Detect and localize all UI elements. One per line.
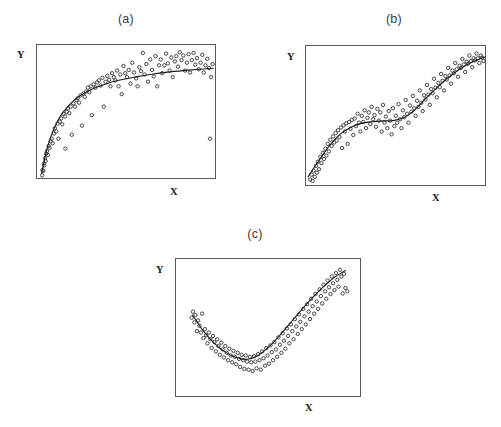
data-point xyxy=(274,348,277,351)
data-point xyxy=(282,339,285,342)
data-point xyxy=(341,292,344,295)
data-point xyxy=(325,297,328,300)
panel-c-data-points xyxy=(190,268,349,373)
data-point xyxy=(251,369,254,372)
data-point xyxy=(344,286,347,289)
data-point xyxy=(200,312,203,315)
data-point xyxy=(316,307,319,310)
data-point xyxy=(336,278,339,281)
data-point xyxy=(203,327,206,330)
data-point xyxy=(210,346,213,349)
data-point xyxy=(202,336,205,339)
data-point xyxy=(255,367,258,370)
data-point xyxy=(300,327,303,330)
data-point xyxy=(292,338,295,341)
data-point xyxy=(346,290,349,293)
data-point xyxy=(194,313,197,316)
data-point xyxy=(311,305,314,308)
data-point xyxy=(307,310,310,313)
data-point xyxy=(327,286,330,289)
data-point xyxy=(243,367,246,370)
data-point xyxy=(232,349,235,352)
data-point xyxy=(333,288,336,291)
panel-c-title: (c) xyxy=(225,227,285,241)
data-point xyxy=(315,300,318,303)
data-point xyxy=(308,317,311,320)
data-point xyxy=(278,343,281,346)
data-point xyxy=(263,364,266,367)
data-point xyxy=(199,331,202,334)
data-point xyxy=(249,361,252,364)
data-point xyxy=(319,294,322,297)
data-point xyxy=(211,334,214,337)
data-point xyxy=(215,338,218,341)
data-point xyxy=(299,320,302,323)
data-point xyxy=(262,357,265,360)
data-point xyxy=(195,330,198,333)
data-point xyxy=(228,347,231,350)
data-point xyxy=(331,282,334,285)
data-point xyxy=(245,360,248,363)
data-point xyxy=(342,272,345,275)
data-point xyxy=(206,342,209,345)
data-point xyxy=(193,321,196,324)
data-point xyxy=(258,359,261,362)
data-point xyxy=(214,350,217,353)
data-point xyxy=(295,325,298,328)
data-point xyxy=(190,316,193,319)
data-point xyxy=(280,351,283,354)
data-point xyxy=(329,292,332,295)
data-point xyxy=(296,332,299,335)
data-point xyxy=(259,368,262,371)
data-point xyxy=(231,361,234,364)
data-point xyxy=(244,354,247,357)
data-point xyxy=(207,331,210,334)
data-point xyxy=(247,368,250,371)
data-point xyxy=(275,355,278,358)
data-point xyxy=(218,353,221,356)
panel-c: (c)YX xyxy=(0,0,501,427)
data-point xyxy=(286,334,289,337)
data-point xyxy=(191,310,194,313)
data-point xyxy=(222,356,225,359)
panel-c-y-axis-label: Y xyxy=(156,264,164,275)
data-point xyxy=(220,341,223,344)
data-point xyxy=(303,315,306,318)
data-point xyxy=(312,312,315,315)
data-point xyxy=(236,351,239,354)
data-point xyxy=(304,323,307,326)
data-point xyxy=(288,342,291,345)
panel-c-plot-area xyxy=(175,258,361,397)
data-point xyxy=(320,302,323,305)
data-point xyxy=(270,350,273,353)
panel-c-x-axis-label: X xyxy=(305,402,313,413)
figure-container: (a)YX(b)YX(c)YX xyxy=(0,0,501,427)
data-point xyxy=(337,285,340,288)
data-point xyxy=(266,354,269,357)
data-point xyxy=(271,359,274,362)
data-point xyxy=(284,347,287,350)
data-point xyxy=(334,271,337,274)
data-point xyxy=(224,344,227,347)
data-point xyxy=(338,268,341,271)
data-point xyxy=(240,353,243,356)
data-point xyxy=(267,362,270,365)
data-point xyxy=(235,363,238,366)
data-point xyxy=(226,359,229,362)
data-point xyxy=(323,290,326,293)
data-point xyxy=(254,360,257,363)
data-point xyxy=(239,365,242,368)
panel-c-scatter-plot xyxy=(176,259,362,398)
data-point xyxy=(291,330,294,333)
